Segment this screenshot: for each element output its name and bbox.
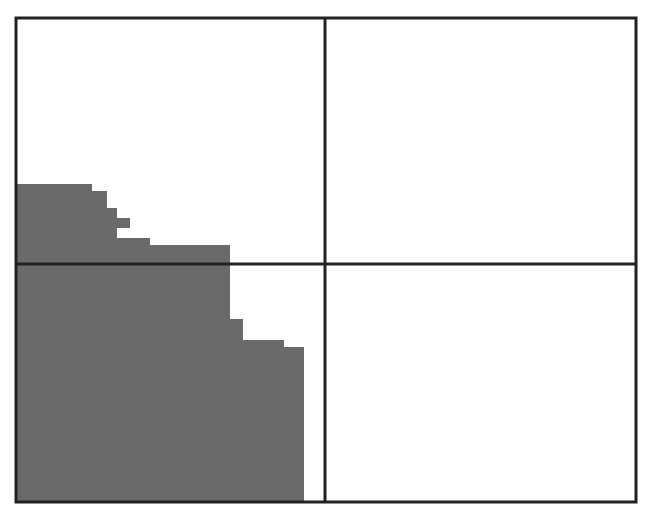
grid-diagram	[0, 0, 649, 512]
